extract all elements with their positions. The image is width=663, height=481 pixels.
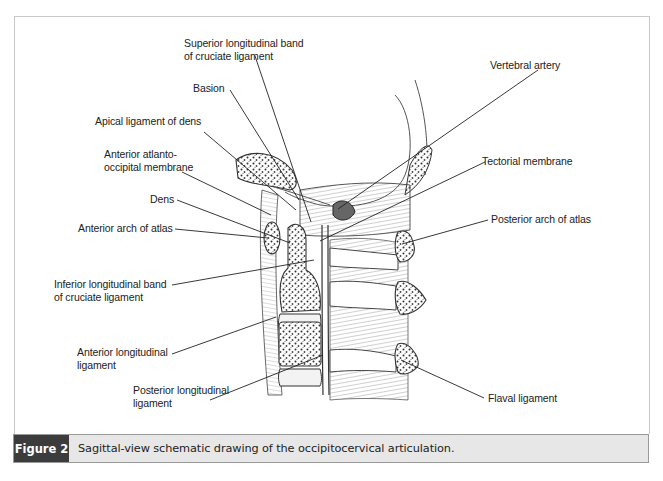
figure-caption-bar: Figure 2 Sagittal-view schematic drawing… <box>13 434 649 463</box>
label-anterior-atlanto-occipital: Anterior atlanto- occipital membrane <box>104 148 193 174</box>
label-inferior-band: Inferior longitudinal band of cruciate l… <box>54 278 166 304</box>
label-line: Posterior longitudinal <box>133 384 229 397</box>
label-line: of cruciate ligament <box>54 291 166 304</box>
figure-caption-text: Sagittal-view schematic drawing of the o… <box>69 442 454 455</box>
label-line: Anterior atlanto- <box>104 148 193 161</box>
label-anterior-longitudinal: Anterior longitudinal ligament <box>77 346 168 372</box>
label-flaval-ligament: Flaval ligament <box>488 392 557 405</box>
label-line: Inferior longitudinal band <box>54 278 166 291</box>
label-superior-band: Superior longitudinal band of cruciate l… <box>184 37 303 63</box>
label-line: occipital membrane <box>104 161 193 174</box>
label-basion: Basion <box>193 82 225 95</box>
label-line: ligament <box>133 397 229 410</box>
dens-c2-icon <box>280 224 320 312</box>
label-line: Superior longitudinal band <box>184 37 303 50</box>
c3-body-icon <box>279 322 321 366</box>
label-tectorial-membrane: Tectorial membrane <box>482 155 572 168</box>
label-line: ligament <box>77 359 168 372</box>
label-posterior-arch: Posterior arch of atlas <box>491 213 591 226</box>
label-dens: Dens <box>150 193 174 206</box>
posterior-arch-icon <box>395 231 414 262</box>
label-line: of cruciate ligament <box>184 50 303 63</box>
label-line: Anterior longitudinal <box>77 346 168 359</box>
label-vertebral-artery: Vertebral artery <box>490 59 560 72</box>
label-anterior-arch: Anterior arch of atlas <box>78 222 173 235</box>
label-posterior-longitudinal: Posterior longitudinal ligament <box>133 384 229 410</box>
anatomy-illustration <box>0 0 663 481</box>
figure-number-tag: Figure 2 <box>14 435 69 462</box>
label-apical-ligament: Apical ligament of dens <box>95 115 201 128</box>
